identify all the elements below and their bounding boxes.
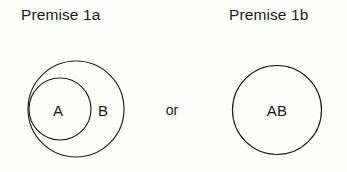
circle-outer-b	[28, 61, 124, 157]
diagram-canvas: Premise 1a Premise 1b A B AB or	[0, 0, 347, 172]
region-label-ab: AB	[267, 102, 287, 119]
connector-or-text: or	[166, 102, 178, 118]
euler-diagram-shapes	[0, 0, 347, 172]
region-label-a: A	[53, 102, 63, 119]
region-label-b: B	[98, 102, 108, 119]
